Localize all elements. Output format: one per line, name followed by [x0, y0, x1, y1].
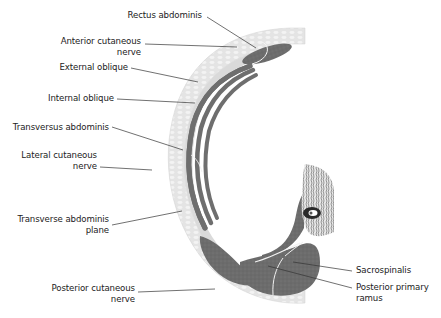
label-sacrospinalis: Sacrospinalis — [356, 265, 411, 276]
transversus-abdominis-muscle — [205, 75, 256, 218]
label-transversus-abdominis: Transversus abdominis — [13, 122, 109, 133]
label-posterior-primary-ramus: Posterior primary ramus — [356, 282, 429, 304]
label-lateral-cutaneous-nerve: Lateral cutaneous nerve — [21, 150, 97, 172]
label-external-oblique: External oblique — [60, 62, 128, 73]
label-anterior-cutaneous-nerve: Anterior cutaneous nerve — [61, 36, 141, 58]
label-rectus-abdominis: Rectus abdominis — [127, 10, 202, 21]
label-transverse-abdominis-plane: Transverse abdominis plane — [17, 214, 109, 236]
label-internal-oblique: Internal oblique — [48, 93, 114, 104]
vertebra — [301, 164, 334, 236]
label-posterior-cutaneous-nerve: Posterior cutaneous nerve — [51, 283, 135, 305]
